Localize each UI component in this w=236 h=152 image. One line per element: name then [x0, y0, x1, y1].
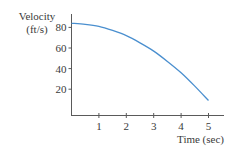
- y-axis-title-line1: Velocity: [19, 10, 56, 22]
- y-axis-title-line2: (ft/s): [26, 23, 48, 36]
- x-axis-title: Time (sec): [177, 133, 224, 146]
- x-tick-label: 5: [206, 120, 212, 132]
- x-tick-label: 3: [151, 120, 157, 132]
- velocity-curve: [72, 23, 209, 100]
- y-ticks: 20406080: [56, 21, 72, 95]
- x-tick-label: 4: [178, 120, 184, 132]
- x-tick-label: 1: [96, 120, 102, 132]
- x-tick-label: 2: [124, 120, 130, 132]
- y-tick-label: 40: [56, 63, 68, 75]
- y-tick-label: 60: [56, 42, 68, 54]
- velocity-chart: 20406080 12345 Velocity (ft/s) Time (sec…: [0, 0, 236, 152]
- y-tick-label: 20: [56, 83, 68, 95]
- y-tick-label: 80: [56, 21, 68, 33]
